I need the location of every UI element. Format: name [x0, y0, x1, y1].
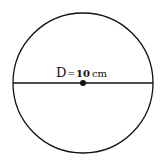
- center-point: [80, 80, 86, 86]
- equals-sign: =: [67, 69, 75, 79]
- diameter-symbol: D: [56, 65, 66, 80]
- diameter-label: D=10cm: [56, 65, 108, 80]
- diameter-unit: cm: [92, 68, 108, 79]
- diameter-value: 10: [76, 68, 90, 79]
- circle-diagram: D=10cm: [0, 0, 162, 163]
